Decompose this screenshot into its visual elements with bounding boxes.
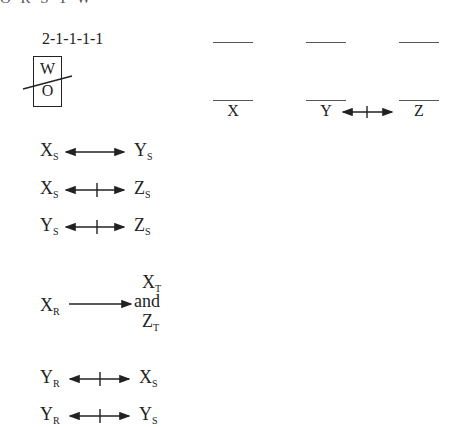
diagram-lines — [0, 0, 456, 427]
strike-line — [23, 76, 72, 89]
